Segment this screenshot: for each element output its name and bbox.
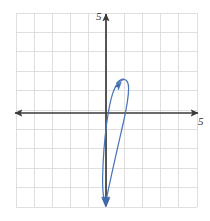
coordinate-plane-svg [0, 0, 210, 221]
graph-figure: 5 5 [0, 0, 210, 221]
x-axis-max-tick-label: 5 [198, 116, 204, 127]
y-axis-max-tick-label: 5 [96, 11, 102, 22]
